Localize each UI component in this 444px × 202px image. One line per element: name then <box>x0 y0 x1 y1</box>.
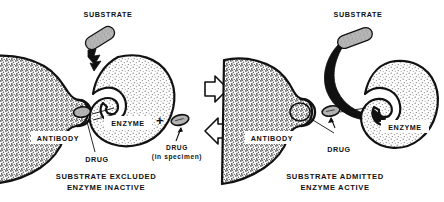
left-caption-line-1: SUBSTRATE EXCLUDED <box>56 172 157 181</box>
right-enzyme-label-group: ENZYME <box>381 120 429 133</box>
left-drug-label: DRUG <box>85 155 109 164</box>
right-enzyme-label: ENZYME <box>388 123 422 132</box>
left-enzyme-label: ENZYME <box>111 119 145 128</box>
diagram-canvas: SUBSTRATE ANTIBODY ENZYME <box>0 0 444 202</box>
right-antibody-label-group: ANTIBODY <box>245 131 299 144</box>
right-antibody-label: ANTIBODY <box>251 134 293 143</box>
free-drug-label: DRUG <box>166 144 188 151</box>
immunoassay-diagram-svg: SUBSTRATE ANTIBODY ENZYME <box>0 0 444 202</box>
free-drug-sublabel: (in specimen) <box>152 153 202 161</box>
left-caption-line-2: ENZYME INACTIVE <box>67 183 145 192</box>
left-antibody-label-group: ANTIBODY <box>31 131 85 144</box>
left-enzyme-label-group: ENZYME <box>104 116 152 129</box>
left-substrate-label: SUBSTRATE <box>84 10 133 19</box>
right-substrate-label: SUBSTRATE <box>334 10 383 19</box>
plus-sign: + <box>156 113 164 128</box>
right-drug-label: DRUG <box>327 145 351 154</box>
left-antibody-label: ANTIBODY <box>37 134 79 143</box>
right-caption-line-2: ENZYME ACTIVE <box>300 183 369 192</box>
right-caption-line-1: SUBSTRATE ADMITTED <box>286 172 384 181</box>
